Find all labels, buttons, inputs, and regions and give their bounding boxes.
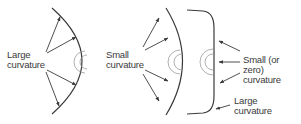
- curved-surface: [52, 8, 82, 114]
- label-small-or-zero-curvature: Small (or zero) curvature: [243, 55, 301, 85]
- ripple-icon: [74, 51, 87, 73]
- ripple-icon: [168, 50, 182, 74]
- ripple-icon: [200, 49, 213, 75]
- label-large-curvature-1: Large curvature: [7, 50, 45, 70]
- label-line: Small (or zero): [243, 55, 301, 75]
- label-line: curvature: [243, 75, 301, 85]
- label-small-curvature: Small curvature: [106, 50, 144, 70]
- panel-1-large-curvature: [46, 8, 87, 114]
- panel-3-flat-surface: [187, 10, 240, 114]
- panel-2-small-curvature: [143, 8, 183, 115]
- label-line: curvature: [234, 106, 272, 116]
- arrows: [143, 18, 168, 101]
- label-line: curvature: [106, 60, 144, 70]
- flat-surface: [187, 10, 214, 114]
- label-line: curvature: [7, 60, 45, 70]
- label-large-curvature-2: Large curvature: [234, 96, 272, 116]
